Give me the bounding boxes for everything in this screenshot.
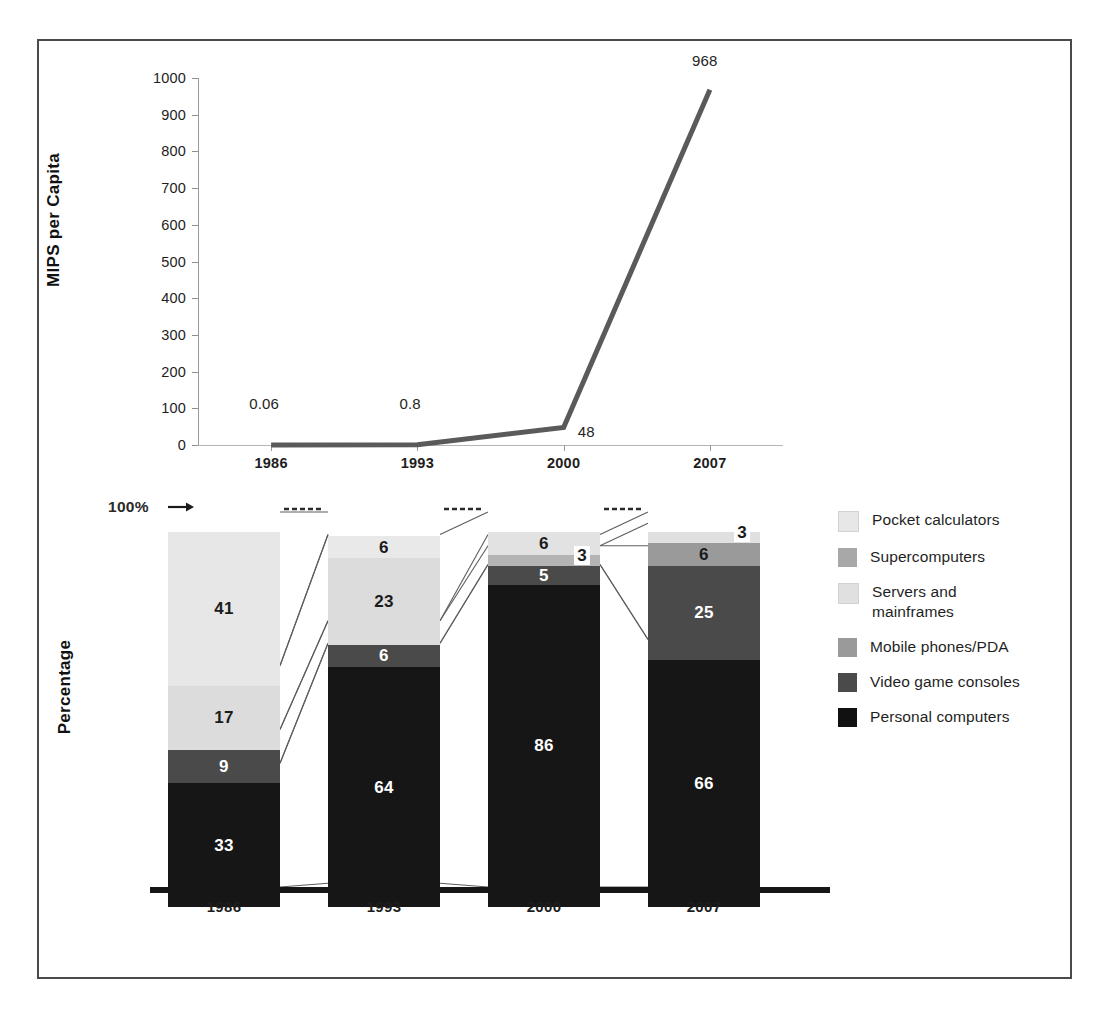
bar-segment-value-label: 6 [379,647,389,664]
legend-swatch-icon [838,548,857,567]
legend-item-label: Mobile phones/PDA [870,637,1009,657]
bar-segment[interactable]: 3 [488,555,600,566]
hundred-percent-marker-label: 100% [108,498,149,516]
data-label-1993: 0.8 [399,395,420,412]
bar-segment[interactable]: 5 [488,566,600,585]
stacked-bar-chart-percentage: Percentage 100% 411793362366463586362566… [0,490,1110,990]
legend-item-label: Servers and mainframes [872,582,957,622]
connector-line [280,535,328,666]
line-chart-mips-per-capita: MIPS per Capita 100090080070060050040030… [0,0,1110,500]
legend-swatch-icon [838,511,859,532]
connector-line [600,565,648,640]
legend-item[interactable]: Video game consoles [838,672,1088,692]
bar-segment-value-label: 17 [214,709,234,726]
legend: Pocket calculatorsSupercomputersServers … [838,510,1088,742]
connector-line [280,643,328,763]
data-label-2007: 968 [692,52,718,69]
connector-line [440,546,488,621]
connector-line [280,643,328,763]
bar-segment-value-label: 25 [694,604,714,621]
bar-segment[interactable]: 23 [328,558,440,644]
hundred-percent-arrow-icon [168,500,194,514]
bar-segment[interactable]: 9 [168,750,280,784]
figure-canvas: MIPS per Capita 100090080070060050040030… [0,0,1110,1016]
legend-item[interactable]: Pocket calculators [838,510,1088,532]
legend-item[interactable]: Personal computers [838,707,1088,727]
bar-x-axis-tick-2007: 2007 [639,898,769,915]
legend-swatch-icon [838,708,857,727]
connector-line [600,565,648,640]
y-axis-label-percentage: Percentage [53,597,77,777]
mips-line-series [271,90,710,445]
legend-item[interactable]: Supercomputers [838,547,1088,567]
bar-segment[interactable]: 6 [328,645,440,668]
legend-item[interactable]: Servers and mainframes [838,582,1088,622]
legend-item-label: Personal computers [870,707,1010,727]
bar-segment-value-label: 6 [539,535,549,552]
connector-line [440,535,488,621]
bar-segment-value-label: 6 [379,539,389,556]
bar-segment-value-label: 3 [574,546,590,565]
connector-line [280,621,328,730]
bar-segment[interactable]: 64 [328,667,440,907]
legend-swatch-icon [838,583,859,604]
bar-segment[interactable]: 66 [648,660,760,908]
legend-item-label: Video game consoles [870,672,1020,692]
bar-x-axis-tick-1986: 1986 [159,898,289,915]
bar-segment[interactable]: 41 [168,532,280,686]
bar-segment-value-label: 6 [699,546,709,563]
bar-segment-value-label: 33 [214,837,234,854]
bar-segment[interactable]: 17 [168,686,280,750]
bar-segment[interactable]: 86 [488,585,600,908]
bar-segment[interactable]: 6 [328,536,440,559]
connector-line [280,535,328,666]
legend-item[interactable]: Mobile phones/PDA [838,637,1088,657]
legend-item-label: Supercomputers [870,547,985,567]
bar-segment-value-label: 5 [539,567,549,584]
connector-line [600,523,648,546]
bar-column-1986[interactable]: 4117933 [168,532,280,907]
legend-swatch-icon [838,673,857,692]
connector-line [440,512,488,535]
data-label-1986: 0.06 [249,395,279,412]
bar-segment[interactable]: 3 [648,532,760,543]
bar-segment[interactable]: 25 [648,566,760,660]
bar-segment[interactable]: 6 [648,543,760,566]
bar-segment-value-label: 3 [734,523,750,542]
legend-swatch-icon [838,638,857,657]
legend-item-label: Pocket calculators [872,510,1000,530]
connector-line [440,565,488,644]
bar-segment-value-label: 86 [534,737,554,754]
bar-column-2007[interactable]: 362566 [648,532,760,907]
bar-segment-value-label: 23 [374,593,394,610]
line-series-svg [0,0,1110,500]
bar-segment-value-label: 64 [374,779,394,796]
data-label-2000: 48 [578,423,595,440]
bar-x-axis-tick-1993: 1993 [319,898,449,915]
connector-line [280,621,328,730]
bar-segment-value-label: 66 [694,775,714,792]
bar-chart-baseline [150,887,830,893]
connector-line [440,565,488,644]
bar-x-axis-tick-2000: 2000 [479,898,609,915]
connector-line [600,512,648,535]
bar-segment-value-label: 9 [219,758,229,775]
bar-column-2000[interactable]: 63586 [488,532,600,907]
bar-column-1993[interactable]: 623664 [328,536,440,907]
bar-segment-value-label: 41 [214,600,234,617]
